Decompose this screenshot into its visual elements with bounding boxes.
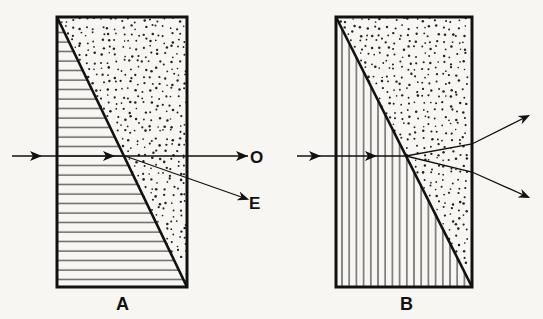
stipple-dot bbox=[428, 55, 430, 57]
stipple-dot bbox=[115, 33, 117, 35]
stipple-dot bbox=[117, 129, 119, 131]
stipple-dot bbox=[442, 174, 444, 176]
stipple-dot bbox=[154, 195, 157, 198]
stipple-dot bbox=[85, 35, 87, 37]
stipple-dot bbox=[435, 67, 437, 69]
stipple-dot bbox=[177, 46, 179, 48]
stipple-dot bbox=[145, 37, 147, 39]
stipple-dot bbox=[129, 80, 131, 82]
stipple-dot bbox=[462, 136, 464, 138]
stipple-dot bbox=[127, 150, 129, 152]
stipple-dot bbox=[373, 54, 375, 56]
stipple-dot bbox=[445, 83, 447, 85]
stipple-dot bbox=[116, 103, 118, 105]
stipple-dot bbox=[416, 33, 418, 35]
stipple-dot bbox=[184, 237, 186, 239]
stipple-dot bbox=[435, 102, 437, 104]
stipple-dot bbox=[462, 202, 465, 205]
stipple-dot bbox=[155, 149, 157, 151]
stipple-dot bbox=[166, 119, 168, 121]
stipple-dot bbox=[149, 89, 151, 91]
stipple-dot bbox=[434, 52, 436, 54]
stipple-dot bbox=[168, 105, 170, 107]
stipple-dot bbox=[378, 34, 380, 36]
stipple-dot bbox=[444, 202, 446, 204]
stipple-dot bbox=[463, 60, 465, 62]
stipple-dot bbox=[458, 188, 460, 190]
stipple-dot bbox=[94, 63, 96, 65]
stipple-dot bbox=[67, 32, 69, 34]
stipple-dot bbox=[407, 28, 409, 30]
stipple-dot bbox=[386, 26, 388, 28]
stipple-dot bbox=[178, 88, 180, 90]
stipple-dot bbox=[149, 143, 151, 145]
stipple-dot bbox=[413, 138, 415, 140]
stipple-dot bbox=[435, 181, 437, 183]
stipple-dot bbox=[127, 126, 129, 128]
stipple-dot bbox=[460, 48, 462, 50]
stipple-dot bbox=[448, 119, 450, 121]
stipple-dot bbox=[452, 220, 455, 223]
stipple-dot bbox=[441, 140, 443, 142]
stipple-dot bbox=[463, 214, 465, 216]
stipple-dot bbox=[427, 123, 429, 125]
stipple-dot bbox=[445, 116, 447, 118]
stipple-dot bbox=[374, 26, 376, 28]
stipple-dot bbox=[445, 95, 447, 97]
stipple-dot bbox=[386, 91, 388, 93]
stipple-dot bbox=[409, 40, 411, 42]
stipple-dot bbox=[180, 256, 182, 258]
stipple-dot bbox=[156, 182, 158, 184]
stipple-dot bbox=[183, 133, 185, 135]
stipple-dot bbox=[458, 244, 461, 247]
stipple-dot bbox=[438, 165, 440, 167]
stipple-dot bbox=[137, 95, 139, 97]
stipple-dot bbox=[78, 45, 80, 47]
stipple-dot bbox=[448, 74, 450, 76]
diagram-canvas: O E A B bbox=[0, 0, 543, 319]
stipple-dot bbox=[162, 104, 164, 106]
stipple-dot bbox=[427, 35, 429, 37]
stipple-dot bbox=[462, 111, 465, 114]
stipple-dot bbox=[177, 68, 179, 70]
stipple-dot bbox=[183, 54, 185, 56]
stipple-dot bbox=[436, 80, 438, 82]
stipple-dot bbox=[166, 223, 169, 226]
stipple-dot bbox=[414, 126, 416, 128]
stipple-dot bbox=[124, 40, 126, 42]
stipple-dot bbox=[364, 45, 366, 47]
stipple-dot bbox=[71, 38, 73, 40]
stipple-dot bbox=[371, 63, 373, 65]
stipple-dot bbox=[466, 76, 468, 78]
stipple-dot bbox=[176, 150, 178, 152]
stipple-dot bbox=[159, 117, 161, 119]
stipple-dot bbox=[144, 186, 146, 188]
stipple-dot bbox=[422, 171, 425, 174]
stipple-dot bbox=[382, 62, 384, 64]
stipple-dot bbox=[103, 26, 105, 28]
stipple-dot bbox=[459, 142, 461, 144]
stipple-dot bbox=[159, 130, 161, 132]
stipple-dot bbox=[145, 111, 147, 113]
stipple-dot bbox=[463, 250, 465, 252]
stipple-dot bbox=[129, 47, 131, 49]
stipple-dot bbox=[180, 125, 182, 127]
stipple-dot bbox=[171, 143, 173, 145]
stipple-dot bbox=[156, 214, 158, 216]
stipple-dot bbox=[109, 110, 112, 113]
stipple-dot bbox=[135, 40, 137, 42]
stipple-dot bbox=[121, 20, 123, 22]
stipple-dot bbox=[407, 34, 409, 36]
stipple-dot bbox=[142, 138, 144, 140]
stipple-dot bbox=[152, 83, 154, 85]
stipple-dot bbox=[178, 74, 180, 76]
stipple-dot bbox=[464, 52, 466, 54]
stipple-dot bbox=[421, 95, 423, 97]
stipple-dot bbox=[156, 20, 158, 22]
stipple-dot bbox=[367, 27, 370, 30]
stipple-dot bbox=[143, 34, 145, 36]
stipple-dot bbox=[364, 61, 366, 63]
stipple-dot bbox=[448, 57, 450, 59]
stipple-dot bbox=[184, 200, 186, 202]
stipple-dot bbox=[416, 171, 418, 173]
